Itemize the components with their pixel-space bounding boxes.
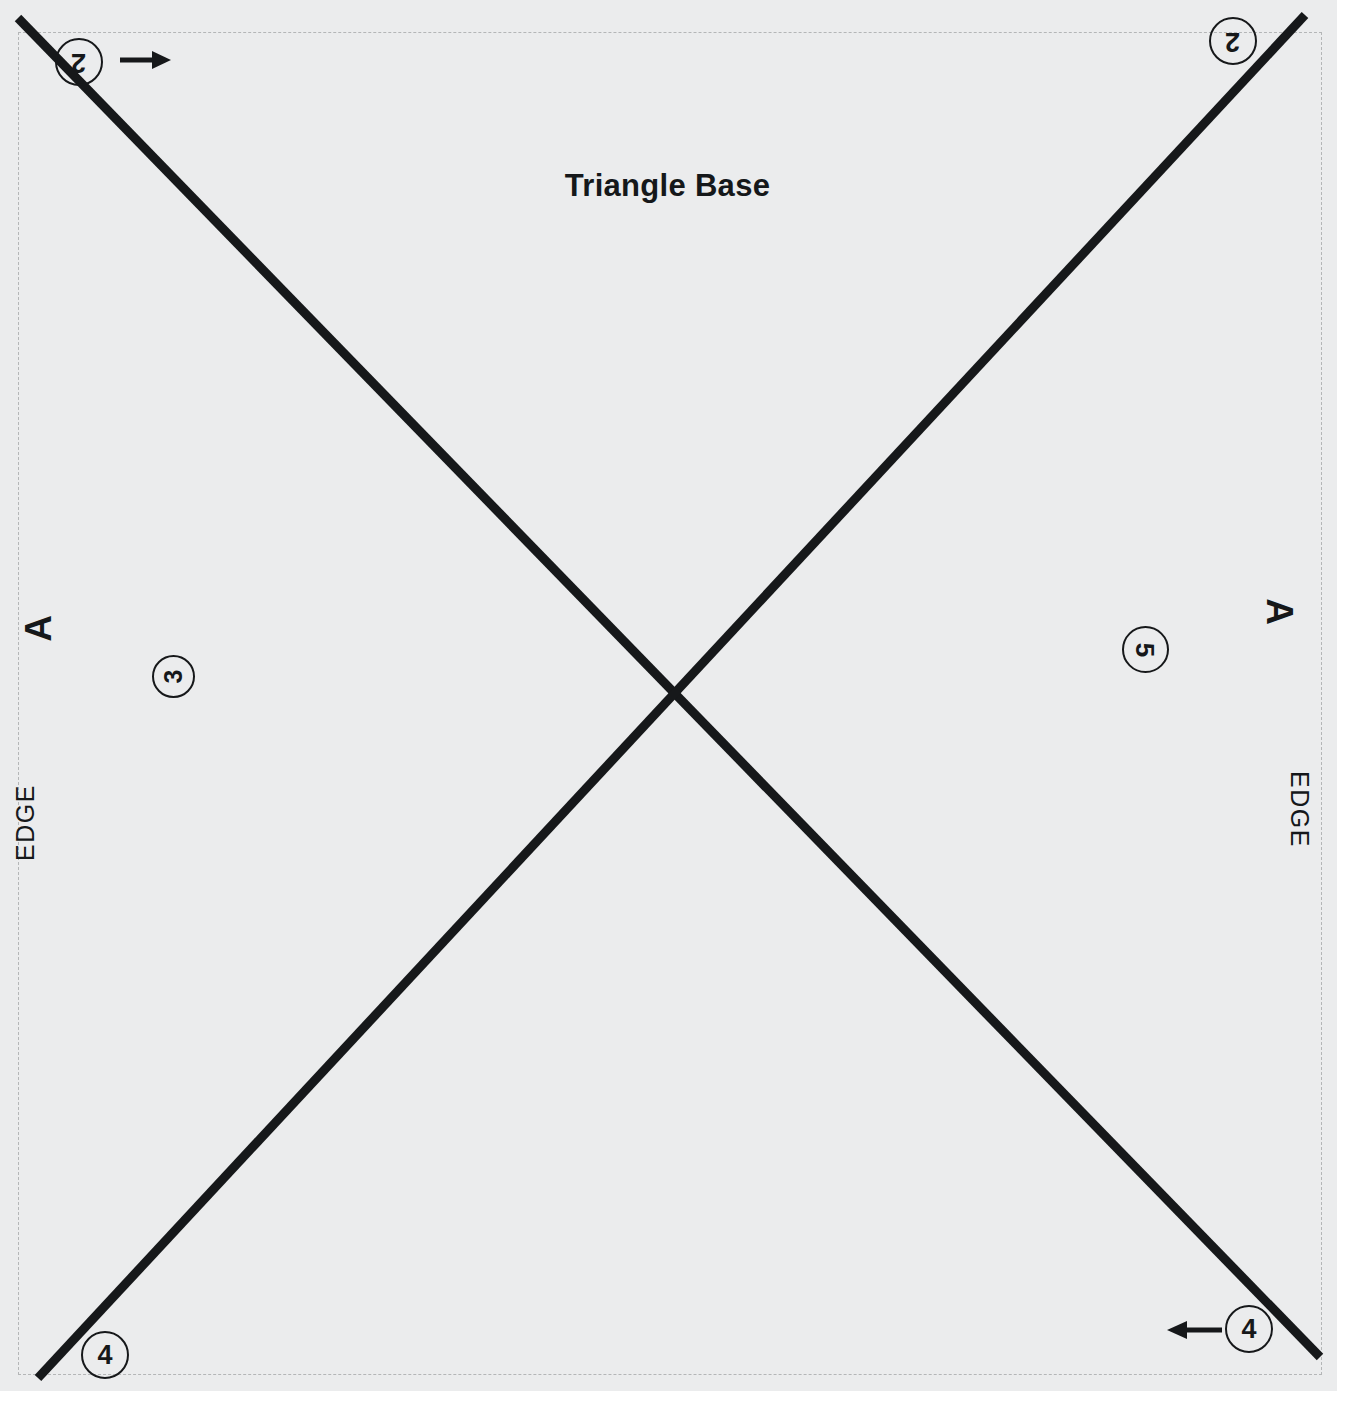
callout-number-right-middle: 5 bbox=[1133, 642, 1159, 656]
callout-number-top-right: 2 bbox=[1225, 28, 1240, 55]
callout-circle-left-middle[interactable]: 3 bbox=[152, 655, 195, 698]
fold-line-diagonal-ne-sw bbox=[38, 15, 1305, 1378]
edge-label-right: EDGE bbox=[1287, 771, 1312, 848]
top-left-arrow-icon bbox=[120, 51, 171, 69]
fold-line-layer bbox=[0, 0, 1351, 1407]
callout-circle-bottom-left[interactable]: 4 bbox=[81, 1331, 129, 1379]
bottom-right-arrow-icon bbox=[1167, 1321, 1222, 1339]
callout-number-left-middle: 3 bbox=[161, 670, 186, 684]
edge-letter-left: A bbox=[20, 615, 57, 642]
callout-number-top-left: 2 bbox=[71, 49, 86, 76]
callout-circle-right-middle[interactable]: 5 bbox=[1122, 626, 1169, 673]
diagram-title: Triangle Base bbox=[0, 168, 1351, 204]
callout-number-bottom-left: 4 bbox=[97, 1342, 112, 1369]
edge-label-left: EDGE bbox=[13, 784, 38, 861]
callout-circle-bottom-right[interactable]: 4 bbox=[1225, 1305, 1273, 1353]
fold-line-diagonal-nw-se bbox=[18, 18, 1320, 1357]
callout-circle-top-left[interactable]: 2 bbox=[55, 38, 103, 86]
diagram-sheet: Triangle Base 2 2 3 5 4 4 EDGE A EDGE A bbox=[0, 0, 1351, 1407]
callout-circle-top-right[interactable]: 2 bbox=[1209, 17, 1257, 65]
diagram-title-text: Triangle Base bbox=[565, 168, 787, 203]
callout-number-bottom-right: 4 bbox=[1241, 1316, 1256, 1343]
edge-letter-right: A bbox=[1261, 598, 1298, 625]
